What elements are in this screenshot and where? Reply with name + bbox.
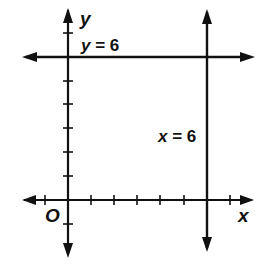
line-x6-up-arrow-icon xyxy=(202,9,212,24)
line-y6-right-arrow-icon xyxy=(240,52,255,62)
line-x6-label-rest: = 6 xyxy=(167,127,196,146)
y-axis-up-arrow-icon xyxy=(63,8,73,23)
line-x6-label: x = 6 xyxy=(157,127,196,146)
x-axis-label: x xyxy=(237,205,250,226)
origin-label: O xyxy=(45,205,60,226)
line-y6-left-arrow-icon xyxy=(22,52,37,62)
coordinate-graph: y y = 6 x = 6 O x xyxy=(0,0,261,276)
line-x6-down-arrow-icon xyxy=(202,237,212,252)
line-y6-label-rest: = 6 xyxy=(90,36,119,55)
line-y6-label: y = 6 xyxy=(80,36,119,55)
y-axis-label: y xyxy=(79,8,92,29)
x-axis-left-arrow-icon xyxy=(22,195,36,205)
x-axis-right-arrow-icon xyxy=(240,195,254,205)
y-axis-down-arrow-icon xyxy=(63,243,73,258)
